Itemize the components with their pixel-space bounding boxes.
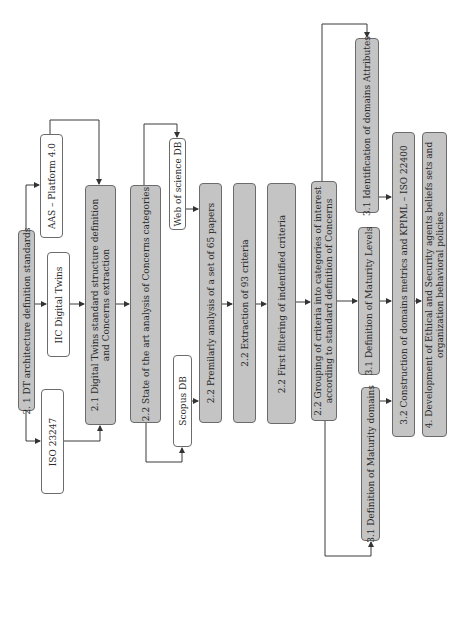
node-label: 2.2 Grouping of criteria into categories… [313, 183, 335, 419]
node-maturity-levels: 3.1 Definition of Maturity Levels [358, 227, 380, 375]
node-label: IIC Digital Twins [53, 266, 64, 343]
node-grouping-criteria: 2.2 Grouping of criteria into categories… [311, 181, 337, 421]
node-label: ISO 23247 [47, 417, 58, 466]
node-label: 3.1 Definition of Maturity domains [365, 385, 376, 543]
node-identification-attributes: 3.1 Identification of domains Attributes [355, 38, 379, 213]
node-scopus-db: Scopus DB [173, 355, 192, 447]
node-premilarly-analysis: 2.2 Premilarly analysis of a set of 65 p… [199, 183, 222, 423]
node-label: 3.2 Construction of domains metrics and … [398, 145, 409, 424]
node-label: 3.1 Definition of Maturity Levels [364, 227, 375, 376]
node-state-of-the-art: 2.2 State of the art analysis of Concern… [130, 185, 161, 423]
node-label: 4. Development of Ethical and Security a… [424, 135, 446, 435]
node-extraction-criteria: 2.2 Extraction of 93 criteria [233, 183, 256, 423]
node-development-policies: 4. Development of Ethical and Security a… [422, 132, 447, 437]
node-label: 2.2 Premilarly analysis of a set of 65 p… [205, 203, 216, 403]
node-first-filtering: 2.2 First filtering of indentified crite… [267, 183, 296, 424]
node-label: 3.1 Identification of domains Attributes [362, 36, 373, 216]
node-aas-platform: AAS – Platform 4.0 [40, 134, 63, 238]
node-label: 2. 1 DT architecture definition standard… [21, 227, 32, 414]
node-web-of-science-db: Web of science DB [169, 138, 186, 230]
node-label: AAS – Platform 4.0 [46, 143, 57, 229]
node-iic-digital-twins: IIC Digital Twins [47, 252, 70, 357]
node-label: 2.2 Extraction of 93 criteria [239, 239, 250, 366]
node-construction-metrics: 3.2 Construction of domains metrics and … [392, 132, 415, 437]
node-label: 2.1 Digital Twins standard structure def… [90, 190, 112, 420]
node-label: 2.2 First filtering of indentified crite… [276, 214, 287, 392]
node-dt-architecture-standards: 2. 1 DT architecture definition standard… [18, 230, 35, 411]
node-label: Scopus DB [177, 376, 188, 426]
node-maturity-domains: 3.1 Definition of Maturity domains [361, 387, 380, 541]
node-label: 2.2 State of the art analysis of Concern… [140, 187, 151, 421]
node-label: Web of science DB [172, 142, 183, 227]
node-dt-structure-definition: 2.1 Digital Twins standard structure def… [85, 185, 116, 425]
node-iso-23247: ISO 23247 [41, 389, 64, 494]
